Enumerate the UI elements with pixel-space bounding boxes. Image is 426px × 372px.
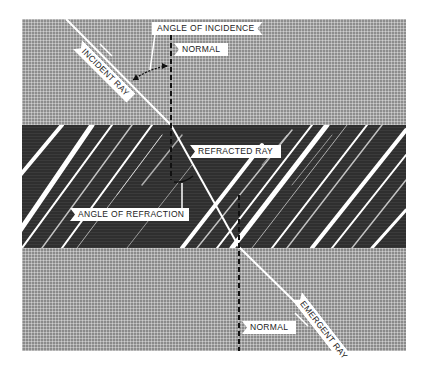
normal-top-label: NORMAL (174, 43, 228, 56)
angle-of-incidence-label: ANGLE OF INCIDENCE (152, 22, 263, 35)
refracted-ray-line (171, 125, 239, 247)
refraction-angle-arc (174, 176, 193, 182)
refraction-diagram: ANGLE OF INCIDENCE NORMAL INCIDENT RAY R… (0, 0, 426, 372)
normal-bottom-label: NORMAL (242, 321, 296, 334)
angle-of-refraction-label: ANGLE OF REFRACTION (70, 208, 189, 221)
arrowhead-icon (133, 74, 139, 80)
refracted-ray-label: REFRACTED RAY (190, 145, 281, 158)
arrowhead-icon (162, 63, 168, 69)
